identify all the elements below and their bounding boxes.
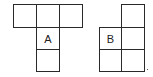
figure-a-cell-top-middle	[36, 4, 60, 28]
figure-a-label: A	[44, 33, 51, 45]
figure-a-cell-labeled: A	[36, 27, 60, 50]
figure-a-cell-bottom	[36, 49, 60, 72]
figure-a-cell-top-right	[59, 4, 83, 28]
stray-dot	[147, 69, 148, 70]
figure-b-cell-bottom-right	[121, 49, 145, 72]
figure-a-cell-top-left	[13, 4, 37, 28]
figure-b-cell-bottom-left	[99, 49, 122, 72]
figure-b-label: B	[107, 33, 114, 45]
figure-b-cell-middle-right	[121, 27, 145, 50]
figure-b-cell-top	[121, 4, 145, 28]
figure-b-cell-labeled: B	[99, 27, 122, 50]
